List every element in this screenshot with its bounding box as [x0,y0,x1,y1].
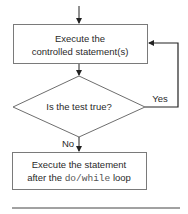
execute-body-label-line1: Execute the [13,32,147,45]
yes-label: Yes [148,92,172,105]
after-loop-label-line2: after the do/while loop [12,171,146,185]
no-label: No [60,137,76,150]
after-loop-suffix: loop [110,172,131,183]
test-label: Is the test true? [13,100,145,113]
do-while-code: do/while [65,173,111,184]
execute-body-label-line2: controlled statement(s) [13,45,147,58]
after-loop-prefix: after the [27,172,65,183]
after-loop-label-line1: Execute the statement [12,158,146,171]
